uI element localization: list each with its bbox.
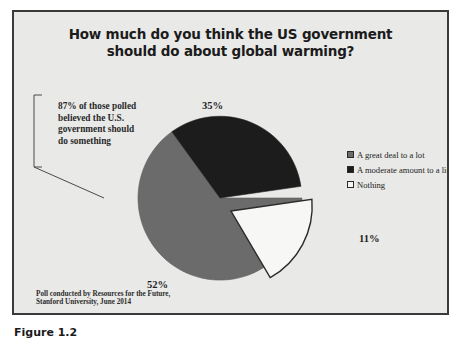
legend-swatch-moderate — [347, 166, 354, 173]
legend-label-moderate: A moderate amount to a little — [357, 165, 449, 175]
legend-item-great-deal[interactable]: A great deal to a lot — [347, 148, 449, 161]
source-note: Poll conducted by Resources for the Futu… — [36, 290, 170, 307]
legend-item-nothing[interactable]: Nothing — [347, 178, 449, 191]
legend-swatch-great-deal — [347, 151, 354, 158]
source-note-line-2: Stanford University, June 2014 — [36, 298, 170, 307]
slice-value-label-nothing: 11% — [359, 233, 380, 244]
legend-swatch-nothing — [347, 181, 354, 188]
legend-label-nothing: Nothing — [357, 180, 385, 190]
figure-caption: Figure 1.2 — [14, 326, 77, 339]
annotation-line-3: government should — [58, 124, 163, 136]
chart-legend: A great deal to a lot A moderate amount … — [347, 148, 449, 193]
source-note-line-1: Poll conducted by Resources for the Futu… — [36, 290, 170, 299]
legend-item-moderate[interactable]: A moderate amount to a little — [347, 163, 449, 176]
annotation-callout: 87% of those polled believed the U.S. go… — [58, 101, 163, 147]
slice-value-label-moderate: 35% — [202, 100, 223, 111]
annotation-line-1: 87% of those polled — [58, 101, 163, 113]
annotation-line-2: believed the U.S. — [58, 113, 163, 125]
annotation-line-4: do something — [58, 136, 163, 148]
legend-label-great-deal: A great deal to a lot — [357, 150, 425, 160]
chart-panel: How much do you think the US government … — [12, 10, 449, 315]
slice-value-label-great-deal: 52% — [147, 279, 168, 290]
